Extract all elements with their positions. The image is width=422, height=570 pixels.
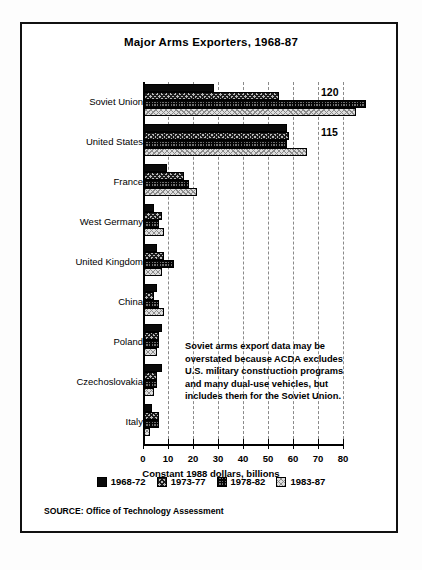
chart-legend: 1968-72 1973-77 1978-82 1983-87 (22, 476, 400, 487)
bar-poland-1968-72 (144, 324, 162, 332)
bar-west-germany-1983-87 (144, 228, 164, 236)
x-tick-label-20: 20 (181, 453, 205, 464)
bar-west-germany-1978-82 (144, 220, 159, 228)
legend-item-1973-77: 1973-77 (157, 476, 206, 487)
bar-czechoslovakia-1978-82 (144, 380, 157, 388)
bar-czechoslovakia-1983-87 (144, 388, 154, 396)
value-label-united-states: 115 (321, 126, 338, 138)
bar-france-1968-72 (144, 164, 167, 172)
bar-italy-1973-77 (144, 412, 159, 420)
bar-soviet-union-1973-77 (144, 92, 279, 100)
category-label-czechoslovakia: Czechoslovakia (76, 376, 143, 387)
chart-card: Major Arms Exporters, 1968-87 0 10 (20, 22, 398, 533)
bar-china-1983-87 (144, 308, 164, 316)
tick-80 (343, 439, 344, 449)
x-tick-label-30: 30 (206, 453, 230, 464)
category-label-united-states: United States (86, 136, 143, 147)
x-tick-label-80: 80 (331, 453, 355, 464)
bar-france-1973-77 (144, 172, 184, 180)
source-prefix: SOURCE: (44, 506, 84, 516)
bar-france-1978-82 (144, 180, 189, 188)
legend-label-1978-82: 1978-82 (231, 476, 266, 487)
category-label-west-germany: West Germany (80, 216, 143, 227)
legend-item-1983-87: 1983-87 (276, 476, 325, 487)
legend-label-1968-72: 1968-72 (111, 476, 146, 487)
bar-soviet-union-1978-82 (144, 100, 366, 108)
bar-czechoslovakia-1968-72 (144, 364, 162, 372)
x-tick-label-50: 50 (256, 453, 280, 464)
bar-united-kingdom-1968-72 (144, 244, 157, 252)
tick-20 (193, 439, 194, 449)
bar-united-kingdom-1983-87 (144, 268, 162, 276)
source-note: SOURCE: Office of Technology Assessment (44, 506, 224, 516)
bar-united-kingdom-1973-77 (144, 252, 164, 260)
bar-italy-1968-72 (144, 404, 152, 412)
category-label-soviet-union: Soviet Union (89, 96, 143, 107)
category-label-china: China (118, 296, 143, 307)
legend-swatch-1968-72-icon (97, 477, 107, 487)
tick-10 (168, 439, 169, 449)
x-tick-label-70: 70 (306, 453, 330, 464)
plot-area: 0 10 20 30 40 50 60 70 80 Soviet Union U… (22, 64, 400, 459)
legend-label-1973-77: 1973-77 (171, 476, 206, 487)
bar-west-germany-1968-72 (144, 204, 154, 212)
bar-united-kingdom-1978-82 (144, 260, 174, 268)
bar-united-states-1983-87 (144, 148, 307, 156)
tick-70 (318, 439, 319, 449)
legend-item-1978-82: 1978-82 (217, 476, 266, 487)
tick-50 (268, 439, 269, 449)
tick-0 (143, 439, 144, 449)
x-tick-label-40: 40 (231, 453, 255, 464)
bar-united-states-1968-72 (144, 124, 287, 132)
category-label-italy: Italy (126, 416, 143, 427)
x-tick-label-10: 10 (156, 453, 180, 464)
bar-czechoslovakia-1973-77 (144, 372, 157, 380)
category-label-france: France (113, 176, 143, 187)
bar-united-states-1973-77 (144, 132, 289, 140)
screenshot-root: Major Arms Exporters, 1968-87 0 10 (0, 0, 422, 570)
bar-poland-1978-82 (144, 340, 159, 348)
bar-poland-1983-87 (144, 348, 157, 356)
x-tick-label-60: 60 (281, 453, 305, 464)
tick-40 (243, 439, 244, 449)
bar-soviet-union-1968-72 (144, 84, 214, 92)
category-label-poland: Poland (113, 336, 143, 347)
legend-swatch-1983-87-icon (276, 477, 286, 487)
value-label-soviet-union: 120 (321, 86, 339, 98)
chart-annotation: Soviet arms export data may be overstate… (185, 340, 360, 403)
chart-title: Major Arms Exporters, 1968-87 (22, 36, 400, 48)
legend-swatch-1973-77-icon (157, 477, 167, 487)
category-label-united-kingdom: United Kingdom (75, 256, 143, 267)
bar-italy-1978-82 (144, 420, 159, 428)
bar-france-1983-87 (144, 188, 197, 196)
legend-label-1983-87: 1983-87 (290, 476, 325, 487)
legend-item-1968-72: 1968-72 (97, 476, 146, 487)
source-text: Office of Technology Assessment (86, 506, 224, 516)
bar-china-1978-82 (144, 300, 159, 308)
bar-poland-1973-77 (144, 332, 159, 340)
x-tick-label-0: 0 (131, 453, 155, 464)
tick-30 (218, 439, 219, 449)
bar-united-states-1978-82 (144, 140, 287, 148)
bar-soviet-union-1983-87 (144, 108, 356, 116)
legend-swatch-1978-82-icon (217, 477, 227, 487)
bar-italy-1983-87 (144, 428, 150, 436)
tick-60 (293, 439, 294, 449)
bar-china-1968-72 (144, 284, 157, 292)
bar-china-1973-77 (144, 292, 154, 300)
bar-west-germany-1973-77 (144, 212, 162, 220)
